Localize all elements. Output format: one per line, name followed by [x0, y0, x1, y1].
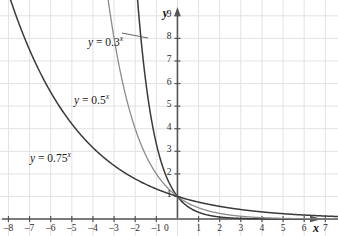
y-tick-label-2: 3: [167, 144, 172, 154]
x-tick-label-1: –7: [25, 223, 35, 233]
y-tick-label-7: 8: [167, 31, 172, 41]
x-tick-label-12: 4: [260, 223, 265, 233]
x-tick-label-9: 1: [196, 223, 201, 233]
curve-label-2: y = 0.75x: [30, 150, 71, 164]
curve-label-1: y = 0.5x: [74, 92, 109, 106]
x-tick-label-15: 7: [323, 223, 328, 233]
x-tick-label-5: –3: [109, 223, 119, 233]
x-tick-label-11: 3: [238, 223, 243, 233]
x-axis-label: x: [313, 221, 319, 236]
y-tick-label-0: 1: [167, 189, 172, 199]
x-tick-label-0: –8: [4, 223, 14, 233]
x-tick-label-3: –5: [67, 223, 77, 233]
y-tick-label-6: 7: [167, 54, 172, 64]
x-tick-label-7: –1: [152, 223, 162, 233]
x-tick-label-13: 5: [281, 223, 286, 233]
y-axis-label: y: [163, 6, 168, 21]
x-tick-label-origin: 0: [164, 223, 169, 233]
x-tick-label-10: 2: [217, 223, 222, 233]
x-tick-label-6: –2: [130, 223, 140, 233]
y-axis-arrow: [174, 7, 180, 16]
chart-figure: y = 0.3xy = 0.5xy = 0.75x–8–7–6–5–4–3–2–…: [0, 0, 338, 236]
y-tick-label-1: 2: [167, 167, 172, 177]
curve-label-0: y = 0.3x: [88, 34, 123, 48]
y-tick-label-3: 4: [167, 122, 172, 132]
x-tick-label-2: –6: [46, 223, 56, 233]
x-tick-label-4: –4: [88, 223, 98, 233]
x-tick-label-14: 6: [302, 223, 307, 233]
y-tick-label-5: 6: [167, 77, 172, 87]
y-tick-label-4: 5: [167, 99, 172, 109]
